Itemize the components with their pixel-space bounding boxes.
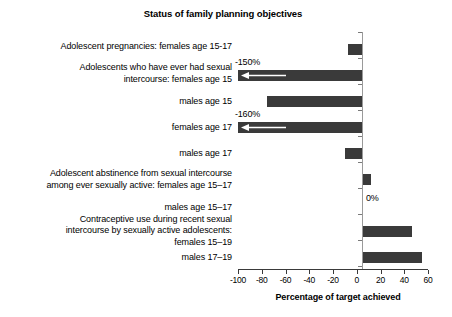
x-tick <box>309 270 310 274</box>
category-label-contraceptive-females-15-19-line1: Contraceptive use during recent sexual <box>0 214 232 226</box>
bar-males-17-19 <box>363 252 422 263</box>
annotation-neg-160: -160% <box>235 109 260 119</box>
bar-ever-had-sex-females-15 <box>238 70 362 81</box>
category-label-females-age-17: females age 17 <box>0 122 232 134</box>
x-tick-label: 60 <box>413 275 443 285</box>
plot-area: -100 -80 -60 -40 -20 0 20 40 60 -150% -1… <box>238 32 428 269</box>
category-label-ever-had-sex-females-15-line1: Adolescents who have ever had sexual <box>0 62 232 74</box>
annotation-neg-150: -150% <box>235 57 260 67</box>
category-label-males-age-15: males age 15 <box>0 96 232 108</box>
category-label-males-age-17: males age 17 <box>0 148 232 160</box>
category-label-males-17-19: males 17–19 <box>0 252 232 264</box>
bar-males-age-17 <box>345 148 362 159</box>
x-tick <box>404 270 405 274</box>
x-tick <box>357 270 358 274</box>
y-tick <box>358 162 362 163</box>
bar-males-age-15 <box>267 96 362 107</box>
x-axis-title: Percentage of target achieved <box>238 292 438 302</box>
y-tick <box>358 110 362 111</box>
category-label-males-age-15-17: males age 15–17 <box>0 202 232 214</box>
chart-title: Status of family planning objectives <box>0 8 446 19</box>
bar-contraceptive-females-15-19 <box>363 226 412 237</box>
y-tick <box>358 58 362 59</box>
x-tick <box>333 270 334 274</box>
category-label-ever-had-sex-females-15-line2: intercourse: females age 15 <box>0 74 232 86</box>
y-tick <box>358 266 362 267</box>
x-tick <box>262 270 263 274</box>
bar-females-age-17 <box>238 122 362 133</box>
x-tick <box>238 270 239 274</box>
x-tick <box>428 270 429 274</box>
category-label-abstinence-females-15-17-line1: Adolescent abstinence from sexual interc… <box>0 168 232 180</box>
y-tick <box>358 136 362 137</box>
y-tick <box>358 214 362 215</box>
bar-abstinence-females-15-17 <box>363 174 371 185</box>
annotation-zero: 0% <box>366 193 379 203</box>
y-tick <box>358 32 362 33</box>
category-label-adolescent-pregnancies: Adolescent pregnancies: females age 15-1… <box>0 41 232 53</box>
x-tick <box>381 270 382 274</box>
category-label-abstinence-females-15-17-line2: among ever sexually active: females age … <box>0 180 232 192</box>
category-label-contraceptive-females-15-19-line3: females 15–19 <box>0 237 232 249</box>
bar-adolescent-pregnancies <box>348 44 362 55</box>
x-tick <box>286 270 287 274</box>
category-label-contraceptive-females-15-19-line2: intercourse by sexually active adolescen… <box>0 225 232 237</box>
y-tick <box>358 240 362 241</box>
bar-chart: Status of family planning objectives Ado… <box>0 0 452 317</box>
y-tick <box>358 84 362 85</box>
y-tick <box>358 188 362 189</box>
